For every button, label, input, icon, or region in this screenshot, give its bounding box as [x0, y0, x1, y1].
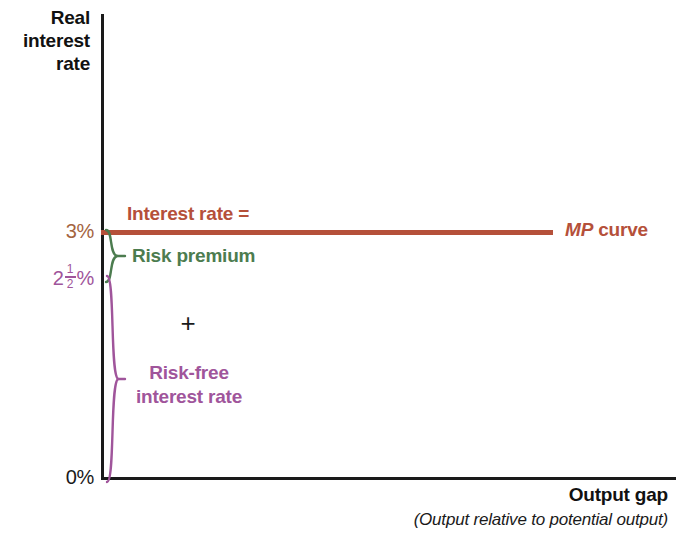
- y-axis-title-line-3: rate: [0, 52, 90, 75]
- plus-sign-label: +: [155, 308, 221, 338]
- risk-free-interest-rate-label: Risk-free interest rate: [110, 361, 268, 409]
- y-axis-title: Real interest rate: [0, 6, 90, 75]
- y-tick-fraction: 1 2: [65, 264, 76, 290]
- y-tick-label-3-percent: 3%: [10, 220, 94, 243]
- risk-premium-label: Risk premium: [132, 245, 255, 267]
- y-axis-title-line-2: interest: [0, 29, 90, 52]
- mp-curve-label-italic: MP: [565, 219, 593, 240]
- y-tick-fraction-denominator: 2: [66, 279, 74, 290]
- mp-curve-label-rest: curve: [593, 219, 648, 240]
- mp-curve-line: [101, 230, 553, 235]
- interest-rate-equation-label: Interest rate =: [127, 203, 249, 225]
- y-tick-fraction-numerator: 1: [66, 264, 74, 275]
- mp-curve-figure: Real interest rate 3% 2 1 2 % 0% MP curv…: [0, 0, 676, 541]
- x-axis-title: Output gap: [376, 484, 668, 506]
- risk-free-label-line-1: Risk-free: [110, 361, 268, 385]
- y-tick-label-2-and-a-half-percent: 2 1 2 %: [4, 263, 94, 293]
- y-tick-label-0-percent: 0%: [10, 466, 94, 489]
- x-axis-line: [101, 477, 676, 480]
- risk-free-label-line-2: interest rate: [110, 385, 268, 409]
- y-tick-percent-sign: %: [77, 267, 94, 290]
- y-tick-whole-number: 2: [53, 267, 64, 290]
- mp-curve-label: MP curve: [565, 219, 648, 241]
- x-axis-subtitle: (Output relative to potential output): [268, 510, 668, 530]
- y-axis-title-line-1: Real: [0, 6, 90, 29]
